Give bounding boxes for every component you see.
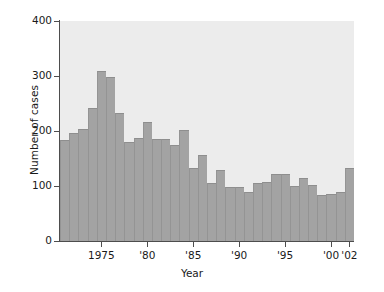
bar <box>198 155 207 241</box>
plot-area <box>60 21 354 241</box>
bar-chart-figure: Number of cases 0100200300400 1975'80'85… <box>0 0 384 292</box>
y-axis-tick-label: 200 <box>26 125 52 136</box>
bar <box>69 133 78 241</box>
bar <box>170 145 179 241</box>
y-axis-tick-label: 400 <box>26 15 52 26</box>
bar <box>115 113 124 241</box>
bar <box>60 140 69 241</box>
bar <box>143 122 152 241</box>
bar <box>253 183 262 241</box>
x-axis-tick-mark <box>101 242 102 247</box>
bar <box>326 194 335 241</box>
x-axis-tick-label: '02 <box>341 250 357 261</box>
x-axis-tick-mark <box>285 242 286 247</box>
bar <box>179 130 188 241</box>
y-axis-tick-label: 0 <box>26 235 52 246</box>
bar <box>262 182 271 241</box>
bar <box>235 187 244 241</box>
x-axis-tick-label: '85 <box>185 250 201 261</box>
x-axis-tick-mark <box>349 242 350 247</box>
y-axis-tick-label: 100 <box>26 180 52 191</box>
x-axis-tick-label: '95 <box>277 250 293 261</box>
bar <box>134 138 143 241</box>
x-axis-tick-label: '90 <box>231 250 247 261</box>
bar <box>308 185 317 241</box>
bar <box>207 183 216 241</box>
bar <box>281 174 290 241</box>
x-axis-tick-mark <box>331 242 332 247</box>
bar <box>271 174 280 241</box>
bar <box>78 129 87 241</box>
x-axis-tick-label: '80 <box>139 250 155 261</box>
bar <box>336 192 345 241</box>
bar <box>106 77 115 241</box>
y-axis-tick-label: 300 <box>26 70 52 81</box>
x-axis-tick-mark <box>147 242 148 247</box>
x-axis-tick-label: 1975 <box>88 250 115 261</box>
bar <box>244 192 253 241</box>
x-axis-title: Year <box>0 267 384 279</box>
x-axis-tick-mark <box>239 242 240 247</box>
bar <box>97 71 106 242</box>
bar <box>317 195 326 241</box>
bar <box>124 142 133 241</box>
bar <box>161 139 170 241</box>
x-axis-tick-mark <box>193 242 194 247</box>
x-axis-tick-label: '00 <box>323 250 339 261</box>
bar <box>152 139 161 241</box>
bar <box>216 170 225 242</box>
bar <box>189 168 198 241</box>
y-axis-tick-labels: 0100200300400 <box>26 0 52 292</box>
bar <box>290 186 299 241</box>
bar <box>299 178 308 241</box>
x-axis-line <box>59 241 354 242</box>
bar <box>345 168 354 241</box>
bar <box>88 108 97 241</box>
bar <box>225 187 234 241</box>
